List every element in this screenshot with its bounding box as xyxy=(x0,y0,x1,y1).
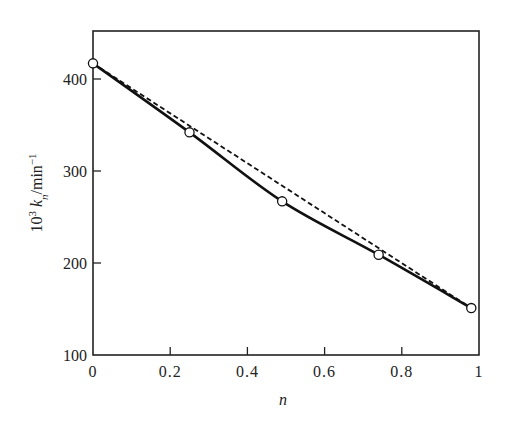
plot-frame xyxy=(93,31,479,355)
data-series xyxy=(88,59,475,313)
data-point-marker xyxy=(467,303,476,312)
x-tick-label: 0.2 xyxy=(159,363,182,380)
x-tick-label: 0.8 xyxy=(390,363,413,380)
y-axis-ticks: 100200300400 xyxy=(63,71,101,364)
data-point-marker xyxy=(278,197,287,206)
x-axis-ticks: 00.20.40.60.81 xyxy=(89,347,484,380)
y-tick-label: 200 xyxy=(63,255,87,272)
x-tick-label: 0.4 xyxy=(236,363,259,380)
x-axis-label: n xyxy=(279,391,287,408)
y-tick-label: 300 xyxy=(63,163,87,180)
y-tick-label: 400 xyxy=(63,71,87,88)
y-tick-label: 100 xyxy=(63,347,87,364)
data-point-marker xyxy=(185,128,194,137)
x-tick-label: 1 xyxy=(475,363,484,380)
x-tick-label: 0 xyxy=(89,363,98,380)
data-point-marker xyxy=(374,250,383,259)
y-axis-label: 103 kn/min−1 xyxy=(26,153,50,232)
x-tick-label: 0.6 xyxy=(313,363,336,380)
chart: 100200300400 00.20.40.60.81 n 103 kn/min… xyxy=(0,0,509,428)
data-point-marker xyxy=(88,59,97,68)
dashed-reference-line xyxy=(93,63,471,308)
